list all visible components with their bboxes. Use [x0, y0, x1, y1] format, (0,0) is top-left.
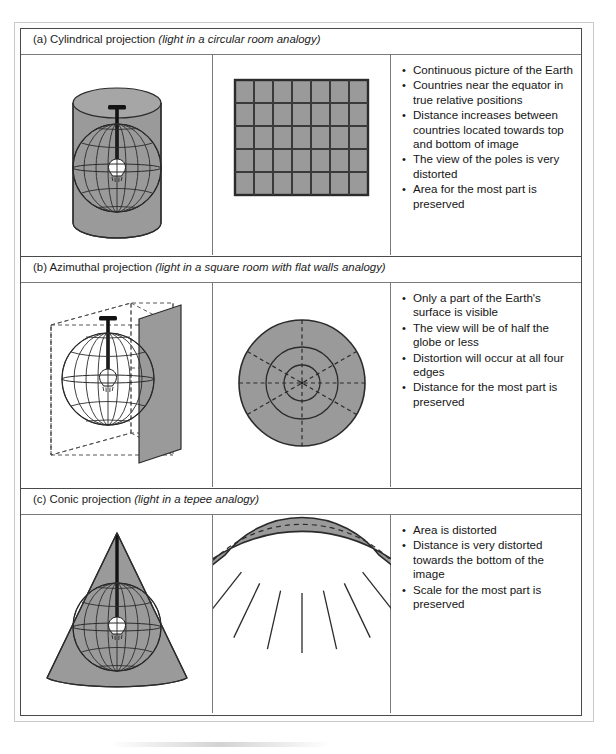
page-scan-artifact	[110, 742, 330, 747]
bullet-icon: •	[402, 321, 406, 335]
list-item: •Only a part of the Earth's surface is v…	[413, 291, 573, 320]
list-item: •Countries near the equator in true rela…	[413, 78, 573, 107]
list-item: •Continuous picture of the Earth	[413, 63, 573, 77]
section-conic-header: (c) Conic projection (light in a tepee a…	[21, 489, 581, 515]
list-item: •Distance is very distorted towards the …	[413, 538, 573, 581]
section-cylindrical-label-italic: (light in a circular room analogy)	[158, 33, 320, 45]
bullet-icon: •	[402, 63, 406, 77]
azimuthal-notes-cell: •Only a part of the Earth's surface is v…	[391, 283, 581, 487]
rectangular-grid-diagram	[213, 55, 391, 255]
cube-globe-diagram	[21, 283, 213, 487]
conic-fan-diagram	[213, 515, 391, 713]
bullet-icon: •	[402, 78, 406, 92]
section-cylindrical: (a) Cylindrical projection (light in a c…	[21, 29, 581, 257]
conic-globe-cell	[21, 515, 213, 713]
conic-projection-cell	[213, 515, 391, 713]
conic-notes-list: •Area is distorted •Distance is very dis…	[391, 515, 581, 616]
list-item: •Distortion will occur at all four edges	[413, 351, 573, 380]
list-item: •Distance for the most part is preserved	[413, 380, 573, 409]
section-cylindrical-label: (a) Cylindrical projection	[33, 33, 155, 45]
section-azimuthal: (b) Azimuthal projection (light in a squ…	[21, 257, 581, 489]
bullet-icon: •	[402, 538, 406, 552]
azimuthal-globe-cell	[21, 283, 213, 487]
cylindrical-notes-list: •Continuous picture of the Earth •Countr…	[391, 55, 581, 216]
bullet-icon: •	[402, 523, 406, 537]
cone-globe-diagram	[21, 515, 213, 713]
bullet-icon: •	[402, 152, 406, 166]
azimuthal-notes-list: •Only a part of the Earth's surface is v…	[391, 283, 581, 414]
bullet-icon: •	[402, 351, 406, 365]
azimuthal-projection-cell	[213, 283, 391, 487]
bullet-icon: •	[402, 291, 406, 305]
cylindrical-globe-cell	[21, 55, 213, 255]
bullet-icon: •	[402, 182, 406, 196]
bullet-icon: •	[402, 380, 406, 394]
cylindrical-notes-cell: •Continuous picture of the Earth •Countr…	[391, 55, 581, 255]
list-item: •Scale for the most part is preserved	[413, 583, 573, 612]
bullet-icon: •	[402, 108, 406, 122]
azimuthal-circle-diagram	[213, 283, 391, 487]
cylindrical-projection-cell	[213, 55, 391, 255]
conic-notes-cell: •Area is distorted •Distance is very dis…	[391, 515, 581, 713]
bullet-icon: •	[402, 583, 406, 597]
section-cylindrical-header: (a) Cylindrical projection (light in a c…	[21, 29, 581, 55]
section-conic-label: (c) Conic projection	[33, 493, 131, 505]
list-item: •Distance increases between countries lo…	[413, 108, 573, 151]
list-item: •Area is distorted	[413, 523, 573, 537]
section-azimuthal-header: (b) Azimuthal projection (light in a squ…	[21, 257, 581, 283]
section-conic: (c) Conic projection (light in a tepee a…	[21, 489, 581, 715]
list-item: •The view of the poles is very distorted	[413, 152, 573, 181]
list-item: •Area for the most part is preserved	[413, 182, 573, 211]
projection-comparison-table: (a) Cylindrical projection (light in a c…	[20, 28, 582, 716]
section-azimuthal-label: (b) Azimuthal projection	[33, 261, 152, 273]
section-azimuthal-label-italic: (light in a square room with flat walls …	[155, 261, 385, 273]
cylinder-globe-diagram	[21, 55, 213, 255]
figure-page: (a) Cylindrical projection (light in a c…	[0, 0, 616, 754]
section-conic-label-italic: (light in a tepee analogy)	[134, 493, 259, 505]
list-item: •The view will be of half the globe or l…	[413, 321, 573, 350]
